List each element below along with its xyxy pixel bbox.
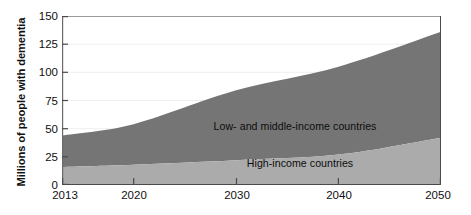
- x-tick-2030: 2030: [224, 189, 250, 201]
- dementia-projection-chart: Millions of people with dementia 150 125…: [0, 0, 471, 215]
- x-tick-2013: 2013: [52, 189, 78, 201]
- x-tick-2050: 2050: [425, 189, 451, 201]
- x-tick-2040: 2040: [326, 189, 352, 201]
- x-axis-tick-labels: 2013 2020 2030 2040 2050: [0, 0, 471, 215]
- x-tick-2020: 2020: [121, 189, 147, 201]
